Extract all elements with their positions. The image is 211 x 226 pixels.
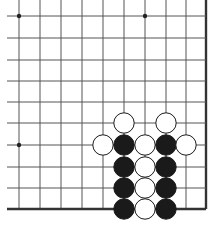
white-stone[interactable]: [176, 135, 196, 155]
black-stone[interactable]: [114, 199, 134, 219]
black-stone[interactable]: [114, 157, 134, 177]
white-stone[interactable]: [135, 157, 155, 177]
white-stone[interactable]: [135, 199, 155, 219]
black-stone[interactable]: [114, 135, 134, 155]
black-stone[interactable]: [156, 178, 176, 198]
white-stone[interactable]: [135, 178, 155, 198]
white-stone[interactable]: [114, 113, 134, 133]
white-stone[interactable]: [135, 135, 155, 155]
white-stone[interactable]: [93, 135, 113, 155]
black-stone[interactable]: [156, 157, 176, 177]
star-point-icon: [17, 14, 21, 18]
black-stone[interactable]: [156, 199, 176, 219]
board-grid: [7, 0, 206, 209]
star-point-icon: [143, 14, 147, 18]
white-stone[interactable]: [156, 113, 176, 133]
black-stone[interactable]: [114, 178, 134, 198]
star-point-icon: [17, 143, 21, 147]
go-board: [0, 0, 211, 226]
black-stone[interactable]: [156, 135, 176, 155]
